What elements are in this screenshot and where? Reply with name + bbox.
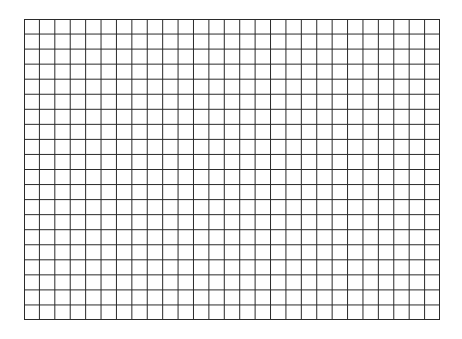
graph-paper-grid [24,19,440,320]
grid-lines [24,19,440,320]
canvas [0,0,462,339]
